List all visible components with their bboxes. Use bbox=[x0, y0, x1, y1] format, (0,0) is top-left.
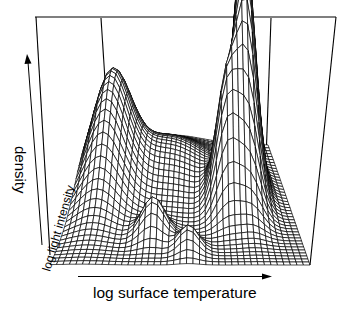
surface-facet bbox=[255, 243, 262, 248]
z-axis-label: density bbox=[12, 146, 29, 194]
surface-facet bbox=[299, 250, 306, 253]
surface-facet bbox=[212, 262, 219, 265]
surface-facet bbox=[118, 247, 125, 251]
surface-facet bbox=[234, 162, 240, 185]
surface-facet bbox=[235, 214, 241, 225]
surface-facet bbox=[174, 178, 180, 185]
surface-facet bbox=[245, 262, 252, 265]
surface-facet bbox=[262, 252, 269, 256]
surface-facet bbox=[117, 255, 124, 259]
surface-facet bbox=[230, 240, 236, 245]
surface-facet bbox=[250, 252, 257, 256]
surface-facet bbox=[124, 251, 131, 255]
surface-facet bbox=[123, 255, 130, 259]
surface-facet bbox=[142, 254, 149, 259]
surface-facet bbox=[173, 196, 179, 202]
surface-facet bbox=[297, 244, 304, 247]
surface-facet bbox=[242, 238, 249, 244]
surface-facet bbox=[238, 262, 245, 265]
surface-facet bbox=[219, 259, 226, 262]
surface-facet bbox=[187, 250, 194, 259]
surface-facet bbox=[118, 251, 125, 255]
surface-facet bbox=[242, 232, 249, 239]
surface-facet bbox=[224, 249, 231, 253]
surface-facet bbox=[184, 192, 190, 198]
surface-facet bbox=[295, 238, 302, 241]
surface-facet bbox=[159, 163, 165, 170]
surface-facet bbox=[303, 262, 311, 265]
surface-facet bbox=[224, 240, 230, 245]
surface-facet bbox=[188, 222, 194, 226]
surface-facet bbox=[169, 171, 175, 178]
surface-facet bbox=[302, 259, 309, 262]
surface-facet bbox=[122, 259, 129, 262]
surface-facet bbox=[162, 189, 168, 196]
surface-facet bbox=[229, 215, 235, 227]
surface-facet bbox=[163, 183, 169, 190]
surface-facet bbox=[237, 256, 244, 259]
surface-facet bbox=[244, 255, 251, 258]
surface-facet bbox=[157, 182, 163, 189]
surface-facet bbox=[277, 262, 284, 265]
surface-facet bbox=[157, 188, 163, 195]
surface-facet bbox=[178, 202, 184, 208]
surface-facet bbox=[241, 224, 247, 233]
surface-facet bbox=[228, 183, 234, 202]
surface-facet bbox=[242, 244, 249, 249]
surface-facet bbox=[173, 184, 179, 191]
surface-facet bbox=[188, 218, 194, 222]
surface-facet bbox=[183, 213, 189, 218]
surface-facet bbox=[148, 262, 155, 265]
surface-facet bbox=[212, 237, 218, 242]
surface-facet bbox=[219, 256, 226, 259]
surface-facet bbox=[173, 190, 179, 197]
surface-facet bbox=[168, 190, 174, 197]
surface-facet bbox=[229, 201, 235, 216]
surface-facet bbox=[167, 196, 173, 202]
surface-facet bbox=[172, 202, 178, 208]
surface-facet bbox=[301, 256, 308, 259]
surface-facet bbox=[189, 181, 194, 187]
surface-facet bbox=[219, 262, 226, 265]
surface-facet bbox=[162, 241, 169, 248]
surface-facet bbox=[300, 253, 307, 256]
wireframe-surface bbox=[50, 0, 310, 265]
surface-facet bbox=[155, 248, 162, 254]
surface-facet bbox=[150, 238, 157, 247]
surface-facet bbox=[248, 232, 255, 238]
surface-facet bbox=[228, 162, 234, 185]
surface-facet bbox=[296, 241, 303, 244]
surface-facet bbox=[149, 247, 156, 253]
surface-facet bbox=[154, 258, 161, 262]
surface-facet bbox=[235, 201, 241, 215]
surface-facet bbox=[143, 247, 150, 254]
surface-facet bbox=[257, 259, 264, 262]
surface-facet bbox=[227, 89, 233, 116]
surface-facet bbox=[230, 245, 237, 249]
surface-facet bbox=[282, 259, 289, 262]
surface-facet bbox=[151, 213, 158, 228]
surface-facet bbox=[150, 226, 157, 239]
surface-facet bbox=[248, 238, 255, 243]
surface-facet bbox=[238, 259, 245, 262]
surface-facet bbox=[231, 249, 238, 253]
surface-facet bbox=[135, 262, 142, 265]
surface-facet bbox=[168, 177, 174, 184]
surface-facet bbox=[163, 170, 169, 177]
surface-facet bbox=[233, 89, 239, 116]
surface-facet bbox=[128, 262, 135, 265]
surface-facet bbox=[183, 208, 189, 213]
surface-facet bbox=[224, 234, 230, 241]
surface-facet bbox=[298, 247, 305, 250]
surface-facet bbox=[240, 164, 246, 186]
surface-facet bbox=[155, 254, 162, 258]
surface-facet bbox=[225, 259, 232, 262]
surface-facet bbox=[231, 259, 238, 262]
surface-facet bbox=[231, 256, 238, 259]
surface-facet bbox=[232, 262, 239, 265]
surface-facet bbox=[230, 234, 236, 241]
surface-facet bbox=[189, 198, 195, 203]
surface-facet bbox=[115, 262, 122, 265]
surface-facet bbox=[161, 261, 168, 265]
surface-facet bbox=[240, 201, 246, 214]
